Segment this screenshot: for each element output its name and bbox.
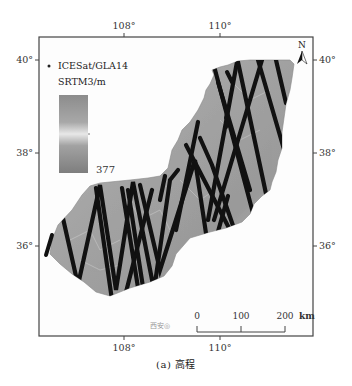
north-label: N <box>298 40 306 50</box>
left-tick-40: 40° <box>16 54 33 65</box>
right-tick-38: 38° <box>319 147 336 158</box>
bottom-tick-110: 110° <box>209 342 232 353</box>
legend-raster-label: SRTM3/m <box>58 76 106 87</box>
figure-caption: (a) 高程 <box>0 356 352 371</box>
scale-label-0: 0 <box>194 311 200 321</box>
scale-label-200: 200 <box>276 311 293 321</box>
legend-track-label: ICESat/GLA14 <box>58 60 128 71</box>
track-marker-icon <box>48 65 51 68</box>
colorbar-min-label: 377 <box>96 164 115 175</box>
map-canvas: 108° 110° 108° 110° 40° 38° 36° 40° 38° … <box>0 0 352 386</box>
left-tick-36: 36° <box>16 240 33 251</box>
right-tick-36: 36° <box>319 240 336 251</box>
right-tick-40: 40° <box>319 54 336 65</box>
scale-label-100: 100 <box>232 311 249 321</box>
scale-unit: km <box>299 311 315 321</box>
map-figure: 108° 110° 108° 110° 40° 38° 36° 40° 38° … <box>0 0 352 386</box>
elevation-colorbar <box>59 95 88 173</box>
top-tick-110: 110° <box>209 20 232 31</box>
left-tick-38: 38° <box>16 147 33 158</box>
bottom-tick-108: 108° <box>113 342 136 353</box>
top-tick-108: 108° <box>113 20 136 31</box>
city-label-xian: 西安◎ <box>150 321 170 330</box>
